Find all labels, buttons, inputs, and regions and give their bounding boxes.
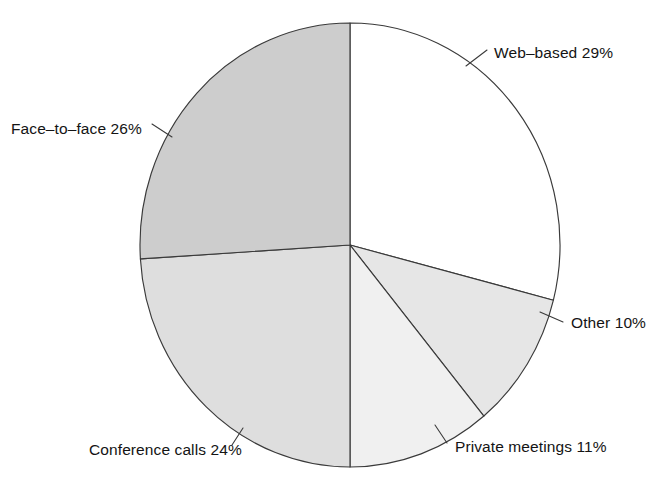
leader-line-web-based [466,50,487,66]
pie-label-private-meetings: Private meetings 11% [455,438,607,455]
pie-label-web-based: Web–based 29% [494,44,613,61]
pie-label-other: Other 10% [571,314,646,331]
pie-slice-conference-calls[interactable] [140,245,350,467]
leader-line-face-to-face [152,124,172,137]
pie-chart-svg: Web–based 29%Other 10%Private meetings 1… [0,0,659,486]
pie-label-conference-calls: Conference calls 24% [89,441,242,458]
pie-label-face-to-face: Face–to–face 26% [11,120,142,137]
pie-chart-figure: Web–based 29%Other 10%Private meetings 1… [0,0,659,486]
pie-slices-group [140,23,560,467]
pie-slice-face-to-face[interactable] [140,23,350,259]
